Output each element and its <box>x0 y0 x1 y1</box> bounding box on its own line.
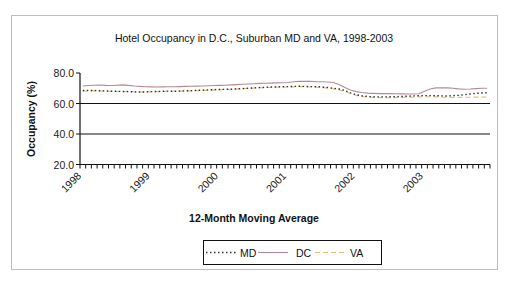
legend-label: VA <box>350 247 363 259</box>
legend-label: DC <box>296 247 312 259</box>
legend-label: MD <box>240 247 257 259</box>
y-tick-label: 80.0 <box>54 67 75 79</box>
x-axis-title: 12-Month Moving Average <box>189 212 319 224</box>
y-tick-label: 20.0 <box>54 159 75 171</box>
y-axis-title: Occupancy (%) <box>25 81 37 157</box>
chart-area: Hotel Occupancy in D.C., Suburban MD and… <box>0 0 510 284</box>
y-tick-label: 60.0 <box>54 98 75 110</box>
y-tick-label: 40.0 <box>54 128 75 140</box>
chart-frame <box>12 16 498 270</box>
chart-title: Hotel Occupancy in D.C., Suburban MD and… <box>115 32 393 44</box>
legend: MDDCVA <box>204 241 382 265</box>
